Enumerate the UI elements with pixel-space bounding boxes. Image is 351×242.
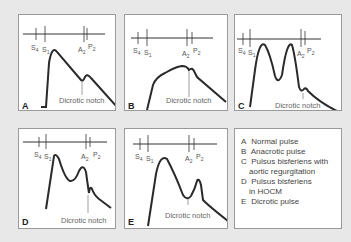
svg-text:B: B xyxy=(128,101,135,111)
svg-text:S4: S4 xyxy=(238,47,246,56)
svg-text:P2: P2 xyxy=(193,47,201,56)
svg-text:P2: P2 xyxy=(88,43,96,52)
svg-text:S1: S1 xyxy=(44,153,52,162)
svg-text:Dicrotic notch: Dicrotic notch xyxy=(59,96,104,105)
panel-b-anacrotic-pulse: S4 S1 A2 P2 Dicrotic notch B xyxy=(124,14,228,111)
waveform-a: S4 S1 A2 P2 Dicrotic notch A xyxy=(19,15,116,111)
legend-item-c: C Pulsus bisferiens withaortic regurgita… xyxy=(241,157,335,177)
svg-text:Dicrotic notch: Dicrotic notch xyxy=(61,216,106,225)
panel-e-dicrotic-pulse: S4 S1 A2 P2 Dicrotic notch E xyxy=(124,128,228,229)
svg-text:Dicrotic notch: Dicrotic notch xyxy=(275,101,320,110)
svg-text:C: C xyxy=(238,101,245,111)
svg-text:A: A xyxy=(22,101,29,111)
panel-c-bisferiens-ar: S4 S1 A2 P2 Dicrotic notch C xyxy=(234,14,342,111)
svg-text:P2: P2 xyxy=(196,153,204,162)
svg-text:S1: S1 xyxy=(144,49,152,58)
svg-text:S1: S1 xyxy=(248,49,256,58)
legend-item-d: D Pulsus bisferiensin HOCM xyxy=(241,177,335,197)
svg-text:A2: A2 xyxy=(81,153,89,162)
svg-text:A2: A2 xyxy=(297,50,305,59)
waveform-c: S4 S1 A2 P2 Dicrotic notch C xyxy=(235,15,342,111)
svg-text:Dicrotic notch: Dicrotic notch xyxy=(166,96,211,105)
svg-text:Dicrotic notch: Dicrotic notch xyxy=(165,211,210,220)
svg-text:D: D xyxy=(22,217,29,227)
svg-text:E: E xyxy=(128,217,134,227)
waveform-e: S4 S1 A2 P2 Dicrotic notch E xyxy=(125,129,228,229)
svg-text:S4: S4 xyxy=(34,151,42,160)
panel-d-bisferiens-hocm: S4 S1 A2 P2 Dicrotic notch D xyxy=(18,128,116,229)
panel-a-normal-pulse: S4 S1 A2 P2 Dicrotic notch A xyxy=(18,14,116,111)
legend-item-a: A Normal pulse xyxy=(241,137,335,147)
legend: A Normal pulse B Anacrotic pulse C Pulsu… xyxy=(234,128,342,229)
waveform-b: S4 S1 A2 P2 Dicrotic notch B xyxy=(125,15,228,111)
svg-text:S4: S4 xyxy=(31,44,39,53)
waveform-d: S4 S1 A2 P2 Dicrotic notch D xyxy=(19,129,116,229)
svg-text:A2: A2 xyxy=(185,155,193,164)
svg-text:S1: S1 xyxy=(42,46,50,55)
legend-item-b: B Anacrotic pulse xyxy=(241,147,335,157)
svg-text:P2: P2 xyxy=(93,151,101,160)
svg-text:A2: A2 xyxy=(78,46,86,55)
legend-item-e: E Dicrotic pulse xyxy=(241,197,335,207)
svg-text:S1: S1 xyxy=(146,155,154,164)
svg-text:A2: A2 xyxy=(182,50,190,59)
svg-text:S4: S4 xyxy=(133,47,141,56)
svg-text:S4: S4 xyxy=(135,153,143,162)
svg-text:P2: P2 xyxy=(307,47,315,56)
